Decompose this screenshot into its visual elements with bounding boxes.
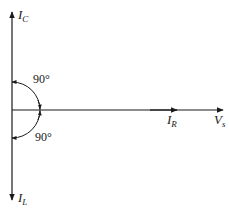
lower-angle-label: 90° <box>35 130 52 144</box>
phasor-diagram: IC IL IR Vs 90° 90° <box>0 0 229 215</box>
lower-angle-arc-start <box>38 111 40 120</box>
vs-label: Vs <box>214 112 226 129</box>
ir-label: IR <box>166 112 177 129</box>
upper-angle-label: 90° <box>33 72 50 86</box>
il-label: IL <box>17 190 27 207</box>
ic-label: IC <box>17 7 29 24</box>
upper-angle-arc <box>12 82 40 110</box>
upper-angle-arc-start <box>38 100 40 109</box>
